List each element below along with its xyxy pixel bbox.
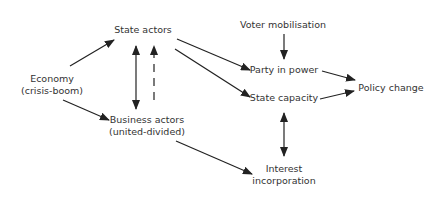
arrow-capacity-to-policy — [320, 91, 354, 99]
node-economy: Economy (crisis-boom) — [21, 73, 83, 97]
business-actors-sublabel: (united-divided) — [109, 126, 185, 138]
arrow-state-actors-to-capacity — [175, 49, 250, 97]
node-business-actors: Business actors (united-divided) — [109, 114, 185, 138]
node-state-capacity: State capacity — [250, 92, 318, 104]
arrow-economy-to-state-actors — [70, 40, 114, 66]
node-policy-change: Policy change — [358, 82, 423, 94]
business-actors-label: Business actors — [109, 114, 185, 126]
arrow-state-actors-to-party — [177, 39, 250, 70]
node-interest-incorporation: Interest incorporation — [252, 163, 315, 187]
node-party-in-power: Party in power — [250, 64, 318, 76]
interest-label: Interest — [252, 163, 315, 175]
node-voter-mobilisation: Voter mobilisation — [240, 19, 326, 31]
node-state-actors: State actors — [114, 24, 172, 36]
arrow-economy-to-business-actors — [63, 100, 109, 120]
diagram-arrows — [0, 0, 447, 198]
arrow-business-to-interest — [176, 141, 252, 174]
economy-sublabel: (crisis-boom) — [21, 85, 83, 97]
incorporation-label: incorporation — [252, 175, 315, 187]
economy-label: Economy — [21, 73, 83, 85]
arrow-party-to-policy — [322, 71, 355, 80]
